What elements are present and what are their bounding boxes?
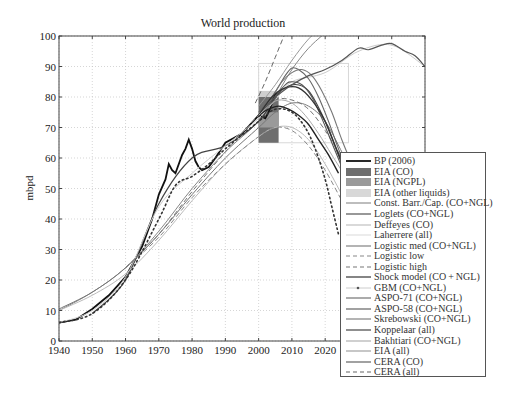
y-tick-label: 10: [45, 305, 57, 317]
legend-item: Loglets (CO+NGL): [345, 209, 485, 220]
legend-swatch-icon: [345, 358, 372, 366]
series-line: [92, 84, 342, 313]
legend-label: GBM (CO+NGL): [374, 283, 446, 293]
legend-label: EIA (NGPL): [374, 177, 425, 187]
legend-item: CERA (all): [345, 367, 485, 378]
legend-item: Shock model (CO + NGL): [345, 272, 485, 283]
legend-swatch-icon: [345, 315, 372, 323]
series-line: [59, 94, 279, 323]
series-line: [59, 103, 342, 309]
legend-label: EIA (CO): [374, 167, 413, 177]
legend-swatch-icon: [345, 273, 372, 281]
legend-label: Shock model (CO + NGL): [374, 272, 480, 282]
y-tick-label: 30: [45, 244, 57, 256]
legend-swatch-icon: [345, 221, 372, 229]
x-tick-label: 1970: [148, 344, 171, 356]
legend-label: Koppelaar (all): [374, 325, 435, 335]
legend-label: EIA (all): [374, 346, 409, 356]
legend-label: Bakhtiari (CO+NGL): [374, 336, 460, 346]
legend-swatch-icon: [345, 347, 372, 355]
legend-label: Logistic low: [374, 251, 424, 261]
legend-label: EIA (other liquids): [374, 188, 450, 198]
legend-item: Laherrere (all): [345, 230, 485, 241]
legend-label: CERA (CO): [374, 357, 423, 367]
legend-swatch-icon: [345, 157, 372, 165]
y-tick-label: 20: [45, 274, 57, 286]
legend-swatch-icon: [345, 242, 372, 250]
legend-label: CERA (all): [374, 367, 419, 377]
chart-legend: BP (2006)EIA (CO)EIA (NGPL)EIA (other li…: [340, 152, 486, 377]
legend-label: Logistic med (CO+NGL): [374, 241, 476, 251]
legend-swatch-icon: [345, 326, 372, 334]
y-axis-label: mbpd: [23, 175, 35, 201]
x-tick-label: 1980: [181, 344, 204, 356]
legend-label: Logistic high: [374, 262, 427, 272]
legend-swatch-icon: [345, 168, 372, 176]
legend-swatch-icon: [345, 231, 372, 239]
y-tick-label: 50: [45, 183, 57, 195]
series-line: [126, 99, 352, 268]
legend-item: BP (2006): [345, 156, 485, 167]
y-tick-label: 70: [45, 122, 57, 134]
legend-swatch-icon: [345, 305, 372, 313]
y-tick-label: 100: [40, 30, 57, 42]
x-tick-label: 1960: [115, 344, 138, 356]
chart-title: World production: [201, 16, 286, 30]
legend-swatch-icon: [345, 189, 372, 197]
legend-label: Loglets (CO+NGL): [374, 209, 453, 219]
legend-swatch-icon: [345, 263, 372, 271]
y-tick-label: 0: [51, 335, 57, 347]
legend-item: Koppelaar (all): [345, 325, 485, 336]
legend-swatch-icon: [345, 210, 372, 218]
legend-swatch-icon: [345, 199, 372, 207]
y-tick-label: 60: [45, 152, 57, 164]
legend-swatch-icon: [345, 337, 372, 345]
legend-swatch-icon: [345, 252, 372, 260]
x-tick-label: 2000: [248, 344, 271, 356]
series-line: [59, 126, 342, 310]
legend-swatch-icon: [345, 284, 372, 292]
legend-swatch-icon: [345, 178, 372, 186]
legend-label: Deffeyes (CO): [374, 220, 433, 230]
y-tick-label: 40: [45, 213, 57, 225]
x-tick-label: 2020: [314, 344, 337, 356]
legend-label: BP (2006): [374, 156, 415, 166]
legend-label: ASPO-58 (CO+NGL): [374, 304, 462, 314]
legend-label: Laherrere (all): [374, 230, 432, 240]
legend-label: Skrebowski (CO+NGL): [374, 314, 470, 324]
x-tick-label: 1950: [81, 344, 104, 356]
legend-label: Const. Barr./Cap. (CO+NGL): [374, 198, 493, 208]
legend-item: EIA (all): [345, 346, 485, 357]
legend-swatch-icon: [345, 294, 372, 302]
x-tick-label: 1990: [214, 344, 237, 356]
x-tick-label: 2010: [281, 344, 304, 356]
y-tick-label: 90: [45, 61, 57, 73]
legend-swatch-icon: [345, 368, 372, 376]
legend-item: Bakhtiari (CO+NGL): [345, 335, 485, 346]
y-tick-label: 80: [45, 91, 57, 103]
legend-item: Logistic low: [345, 251, 485, 262]
legend-label: ASPO-71 (CO+NGL): [374, 293, 462, 303]
